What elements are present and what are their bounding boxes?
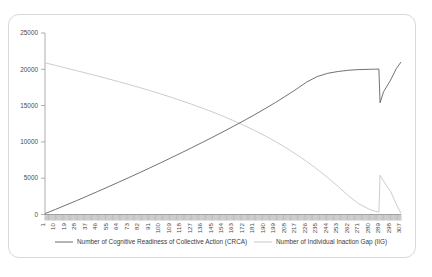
y-tick-label: 15000 xyxy=(20,102,38,109)
x-tick-label: 289 xyxy=(374,222,381,233)
chart-plot-area: 0500010000150002000025000 11019283746556… xyxy=(9,15,417,259)
y-tick-label: 0 xyxy=(34,211,38,218)
x-tick-label: 64 xyxy=(112,222,119,229)
x-tick-label: 271 xyxy=(353,222,360,233)
x-tick-label: 190 xyxy=(259,222,266,233)
x-tick-label: 181 xyxy=(248,222,255,233)
x-tick-label: 163 xyxy=(227,222,234,233)
x-tick-label-group: 1101928374655647382911001091181271361451… xyxy=(39,222,402,233)
x-tick-label: 244 xyxy=(322,222,329,233)
x-tick-label: 280 xyxy=(364,222,371,233)
legend-label: Number of Individual Inaction Gap (IIG) xyxy=(276,238,387,246)
figure-card: 0500010000150002000025000 11019283746556… xyxy=(8,14,416,258)
x-tick-label: 91 xyxy=(144,222,151,229)
series-discontinuity-segment xyxy=(379,69,380,103)
x-tick-label: 37 xyxy=(81,222,88,229)
x-tick-label: 136 xyxy=(196,222,203,233)
chart-legend: Number of Cognitive Readiness of Collect… xyxy=(55,238,387,246)
y-tick-label: 10000 xyxy=(20,138,38,145)
x-tick-label: 109 xyxy=(165,222,172,233)
x-tick-label: 10 xyxy=(49,222,56,229)
x-tick-label: 46 xyxy=(91,222,98,229)
x-tick-label: 298 xyxy=(385,222,392,233)
x-tick-label: 28 xyxy=(70,222,77,229)
x-tick-label: 118 xyxy=(175,222,182,232)
y-tick-label-group: 0500010000150002000025000 xyxy=(20,29,38,218)
x-tick-label: 100 xyxy=(154,222,161,233)
x-tick-label: 127 xyxy=(186,222,193,233)
y-tick-group xyxy=(41,33,45,215)
x-minor-tick-group xyxy=(45,215,401,221)
y-tick-label: 25000 xyxy=(20,29,38,36)
x-tick-label: 253 xyxy=(332,222,339,233)
y-tick-label: 5000 xyxy=(24,174,39,181)
x-tick-label: 55 xyxy=(102,222,109,229)
x-tick-label: 154 xyxy=(217,222,224,233)
x-tick-label: 226 xyxy=(301,222,308,233)
x-tick-label: 145 xyxy=(207,222,214,233)
x-tick-label: 235 xyxy=(311,222,318,233)
x-tick-label: 307 xyxy=(395,222,402,233)
line-chart-svg: 0500010000150002000025000 11019283746556… xyxy=(9,15,417,259)
figure-caption xyxy=(10,263,422,275)
x-tick-label: 208 xyxy=(280,222,287,233)
x-tick-label: 1 xyxy=(39,222,46,226)
legend-label: Number of Cognitive Readiness of Collect… xyxy=(77,238,247,246)
series-discontinuity-segment xyxy=(379,175,380,212)
x-tick-label: 82 xyxy=(133,222,140,229)
series-line-crca xyxy=(45,62,401,214)
x-tick-label: 199 xyxy=(269,222,276,233)
x-tick-label: 19 xyxy=(60,222,67,229)
x-tick-label: 262 xyxy=(343,222,350,233)
y-tick-label: 20000 xyxy=(20,66,38,73)
x-tick-label: 73 xyxy=(123,222,130,229)
x-tick-label: 172 xyxy=(238,222,245,233)
x-tick-label: 217 xyxy=(290,222,297,233)
